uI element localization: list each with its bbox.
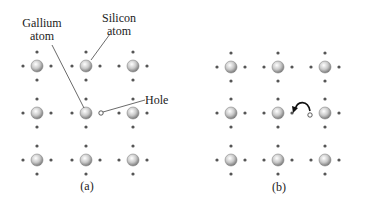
electron	[323, 125, 326, 128]
electron	[49, 158, 52, 161]
atom	[127, 154, 139, 166]
electron	[323, 79, 326, 82]
electron	[323, 172, 326, 175]
electron	[35, 144, 38, 147]
electron	[84, 78, 87, 81]
electron	[337, 158, 340, 161]
atom	[225, 107, 237, 119]
electron	[215, 65, 218, 68]
electron	[49, 64, 52, 67]
electron	[131, 50, 134, 53]
electron	[35, 97, 38, 100]
atom	[319, 107, 331, 119]
arrowhead-icon	[292, 106, 298, 113]
electron	[337, 65, 340, 68]
atom	[31, 154, 43, 166]
electron	[21, 64, 24, 67]
electron	[98, 158, 101, 161]
panel-a-lattice	[21, 50, 148, 175]
electron	[262, 111, 265, 114]
electron	[323, 51, 326, 54]
electron	[131, 125, 134, 128]
electron	[84, 50, 87, 53]
electron	[84, 172, 87, 175]
electron	[98, 64, 101, 67]
electron	[35, 125, 38, 128]
electron	[276, 172, 279, 175]
electron	[276, 125, 279, 128]
electron	[131, 97, 134, 100]
electron	[309, 158, 312, 161]
electron	[70, 64, 73, 67]
electron	[229, 125, 232, 128]
electron	[337, 111, 340, 114]
electron	[229, 144, 232, 147]
electron-move-arrow-icon	[295, 103, 310, 111]
electron	[145, 158, 148, 161]
atom	[31, 60, 43, 72]
electron	[35, 78, 38, 81]
silicon-label-line2: atom	[97, 25, 141, 38]
hole-leader-line	[103, 100, 145, 112]
electron	[70, 158, 73, 161]
electron	[262, 158, 265, 161]
silicon-atom-label: Silicon atom	[97, 12, 141, 38]
hole-label: Hole	[145, 94, 168, 107]
electron	[243, 158, 246, 161]
electron	[145, 64, 148, 67]
electron	[131, 172, 134, 175]
electron	[229, 51, 232, 54]
hole-icon	[99, 111, 103, 115]
electron	[84, 97, 87, 100]
electron	[117, 111, 120, 114]
atom	[225, 61, 237, 73]
atom	[127, 60, 139, 72]
electron	[323, 144, 326, 147]
electron	[229, 97, 232, 100]
electron	[229, 79, 232, 82]
electron	[70, 111, 73, 114]
electron	[117, 64, 120, 67]
electron	[215, 111, 218, 114]
caption-b: (b)	[264, 181, 294, 194]
electron	[323, 97, 326, 100]
electron	[35, 172, 38, 175]
atom	[272, 61, 284, 73]
electron	[229, 172, 232, 175]
panel-b-lattice	[215, 51, 340, 175]
atom	[272, 154, 284, 166]
atom	[31, 107, 43, 119]
electron	[49, 111, 52, 114]
electron	[276, 97, 279, 100]
electron	[145, 111, 148, 114]
electron	[21, 111, 24, 114]
electron	[84, 144, 87, 147]
electron	[262, 65, 265, 68]
electron	[21, 158, 24, 161]
atom	[80, 107, 92, 119]
hole-icon	[308, 113, 312, 117]
electron	[276, 144, 279, 147]
atom	[319, 154, 331, 166]
atom	[225, 154, 237, 166]
electron	[290, 158, 293, 161]
gallium-leader-line	[52, 45, 84, 108]
atom	[80, 60, 92, 72]
electron	[309, 65, 312, 68]
electron	[290, 65, 293, 68]
gallium-label-line2: atom	[20, 30, 64, 43]
caption-a: (a)	[72, 180, 102, 193]
electron	[117, 158, 120, 161]
electron	[243, 65, 246, 68]
electron	[276, 79, 279, 82]
electron	[131, 144, 134, 147]
electron	[35, 50, 38, 53]
atom	[80, 154, 92, 166]
gallium-atom-label: Gallium atom	[20, 17, 64, 43]
electron	[243, 111, 246, 114]
electron	[131, 78, 134, 81]
atom	[127, 107, 139, 119]
atom	[272, 107, 284, 119]
atom	[319, 61, 331, 73]
electron	[84, 125, 87, 128]
